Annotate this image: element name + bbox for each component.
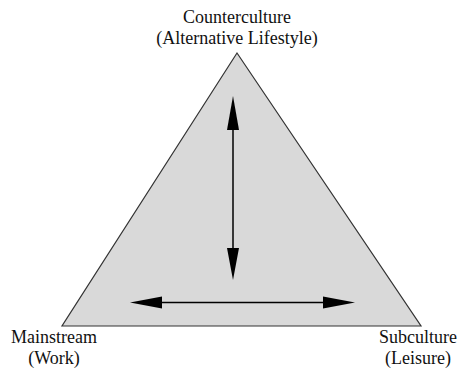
subculture-title: Subculture <box>372 327 464 348</box>
subculture-subtitle: (Leisure) <box>372 348 464 369</box>
counterculture-title: Counterculture <box>137 7 337 28</box>
counterculture-label: Counterculture (Alternative Lifestyle) <box>137 7 337 49</box>
subculture-label: Subculture (Leisure) <box>372 327 464 369</box>
mainstream-label: Mainstream (Work) <box>6 327 102 369</box>
counterculture-subtitle: (Alternative Lifestyle) <box>137 28 337 49</box>
mainstream-subtitle: (Work) <box>6 348 102 369</box>
triangle-shape <box>62 53 421 326</box>
triangle-diagram <box>0 0 465 382</box>
mainstream-title: Mainstream <box>6 327 102 348</box>
